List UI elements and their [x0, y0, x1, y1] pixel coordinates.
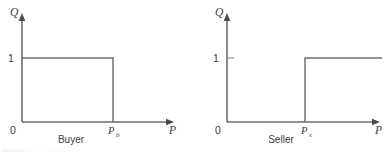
seller-x-axis-label: P — [374, 124, 382, 136]
seller-threshold-label-base: P — [300, 125, 308, 136]
buyer-origin-label: 0 — [10, 124, 16, 136]
buyer-step-curve — [22, 58, 113, 122]
seller-threshold-label-subscript: s — [309, 131, 312, 139]
buyer-y-axis-label: Q — [10, 6, 19, 18]
buyer-y-tick-label-1: 1 — [8, 52, 14, 64]
buyer-x-axis-label: P — [168, 124, 176, 136]
buyer-threshold-label: P b — [107, 125, 120, 139]
buyer-caption: Buyer — [58, 134, 85, 145]
buyer-y-axis-arrowhead — [19, 13, 26, 21]
buyer-panel: Q P 1 0 P b Buyer — [8, 6, 176, 145]
seller-y-axis-label: Q — [215, 6, 224, 18]
figure-container: Q P 1 0 P b Buyer — [0, 0, 390, 155]
seller-y-axis-arrowhead — [224, 13, 231, 21]
buyer-threshold-label-subscript: b — [116, 131, 120, 139]
seller-y-tick-label-1: 1 — [213, 52, 219, 64]
page-edge-artifact — [3, 149, 65, 152]
seller-panel: Q P 1 0 P s Seller — [213, 6, 382, 145]
step-functions-figure: Q P 1 0 P b Buyer — [0, 0, 390, 155]
seller-threshold-label: P s — [300, 125, 312, 139]
seller-origin-label: 0 — [215, 124, 221, 136]
buyer-threshold-label-base: P — [107, 125, 115, 136]
seller-step-curve — [305, 58, 382, 122]
seller-caption: Seller — [268, 134, 294, 145]
